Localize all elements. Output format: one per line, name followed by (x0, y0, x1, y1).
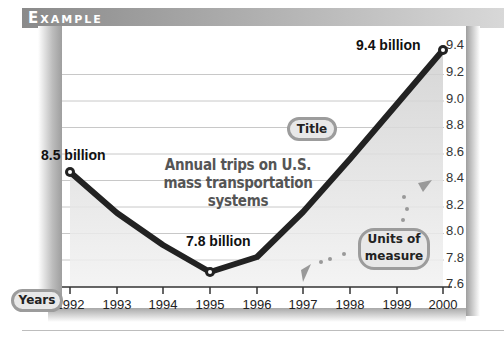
chart-title-line: mass transportation (138, 174, 338, 192)
y-tick: 8.4 (446, 170, 464, 185)
data-label-1995: 7.8 billion (186, 233, 251, 249)
chart-title-line: Annual trips on U.S. (138, 156, 338, 174)
y-tick: 7.6 (446, 276, 464, 291)
x-tick: 2000 (423, 297, 463, 312)
x-tick: 1993 (97, 297, 137, 312)
years-callout: Years (11, 289, 63, 312)
title-callout: Title (287, 117, 337, 141)
units-callout: Units of measure (358, 228, 430, 270)
y-tick: 8.0 (446, 223, 464, 238)
x-tick: 1995 (190, 297, 230, 312)
y-tick: 8.8 (446, 117, 464, 132)
y-tick: 9.0 (446, 91, 464, 106)
units-callout-line: measure (361, 248, 427, 265)
y-tick: 8.6 (446, 144, 464, 159)
y-tick: 9.4 (446, 37, 464, 52)
data-label-2000: 9.4 billion (356, 37, 421, 53)
y-tick: 7.8 (446, 250, 464, 265)
chart-title-line: systems (138, 192, 338, 210)
x-tick: 1997 (283, 297, 323, 312)
x-tick: 1994 (143, 297, 183, 312)
data-label-1992: 8.5 billion (41, 147, 106, 163)
y-tick: 9.2 (446, 64, 464, 79)
y-tick: 8.2 (446, 197, 464, 212)
units-callout-line: Units of (361, 231, 427, 248)
x-axis-ticks (70, 287, 443, 294)
x-tick: 1998 (330, 297, 370, 312)
x-tick: 1999 (377, 297, 417, 312)
x-tick: 1996 (237, 297, 277, 312)
chart-title: Annual trips on U.S. mass transportation… (138, 156, 338, 210)
